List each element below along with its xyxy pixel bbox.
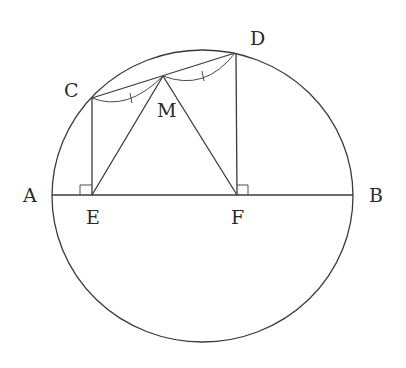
right-angle-mark-f	[237, 185, 248, 195]
label-a: A	[22, 184, 37, 206]
tick-mark-md	[202, 71, 204, 81]
label-c: C	[64, 79, 79, 101]
circle	[52, 50, 353, 342]
label-e: E	[86, 206, 100, 228]
arc-mark-cm	[92, 76, 163, 102]
segment-me	[92, 76, 163, 195]
geometry-diagram: A B C D M E F	[0, 0, 406, 368]
chord-cd	[92, 53, 235, 98]
right-angle-mark-e	[80, 185, 92, 195]
arc-mark-md	[163, 53, 235, 81]
segment-df	[236, 53, 237, 195]
segment-mf	[163, 76, 237, 195]
label-m: M	[157, 99, 176, 121]
label-b: B	[369, 184, 383, 206]
label-d: D	[250, 27, 265, 49]
label-f: F	[231, 206, 244, 228]
